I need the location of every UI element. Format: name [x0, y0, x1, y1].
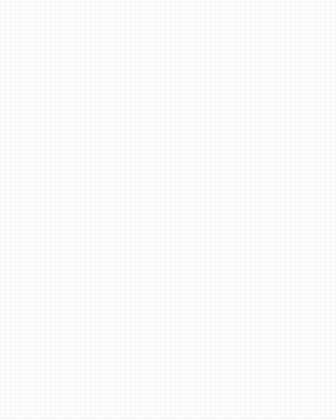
callout-labels: 2% other domestic 2% baths 1% dishwasher… [17, 15, 278, 96]
label-leaks-name: leaks [92, 189, 127, 205]
label-leaks-pct: 14% [95, 172, 125, 188]
pie-chart-figure: 27% toilets 22% clothes washers 17% show… [0, 0, 336, 419]
label-clothes-name1: clothes [216, 300, 265, 316]
label-other-domestic-pct: 2% [77, 63, 99, 79]
leader-line-baths [133, 50, 161, 137]
label-faucets-name: faucets [48, 271, 98, 287]
label-showers-name: showers [117, 348, 173, 364]
label-clothes-pct: 22% [225, 283, 255, 299]
label-clothes-name2: washers [212, 317, 268, 333]
label-other-domestic-name: other domestic [17, 80, 119, 96]
label-toilets-pct: 27% [228, 187, 258, 203]
label-toilets-name: toilets [222, 204, 264, 220]
label-baths-name: baths [106, 32, 144, 48]
label-dishwashers: 1% dishwashers [169, 50, 278, 66]
label-showers-pct: 17% [130, 331, 160, 347]
label-baths-pct: 2% [114, 15, 136, 31]
label-faucets-pct: 16% [58, 254, 88, 270]
